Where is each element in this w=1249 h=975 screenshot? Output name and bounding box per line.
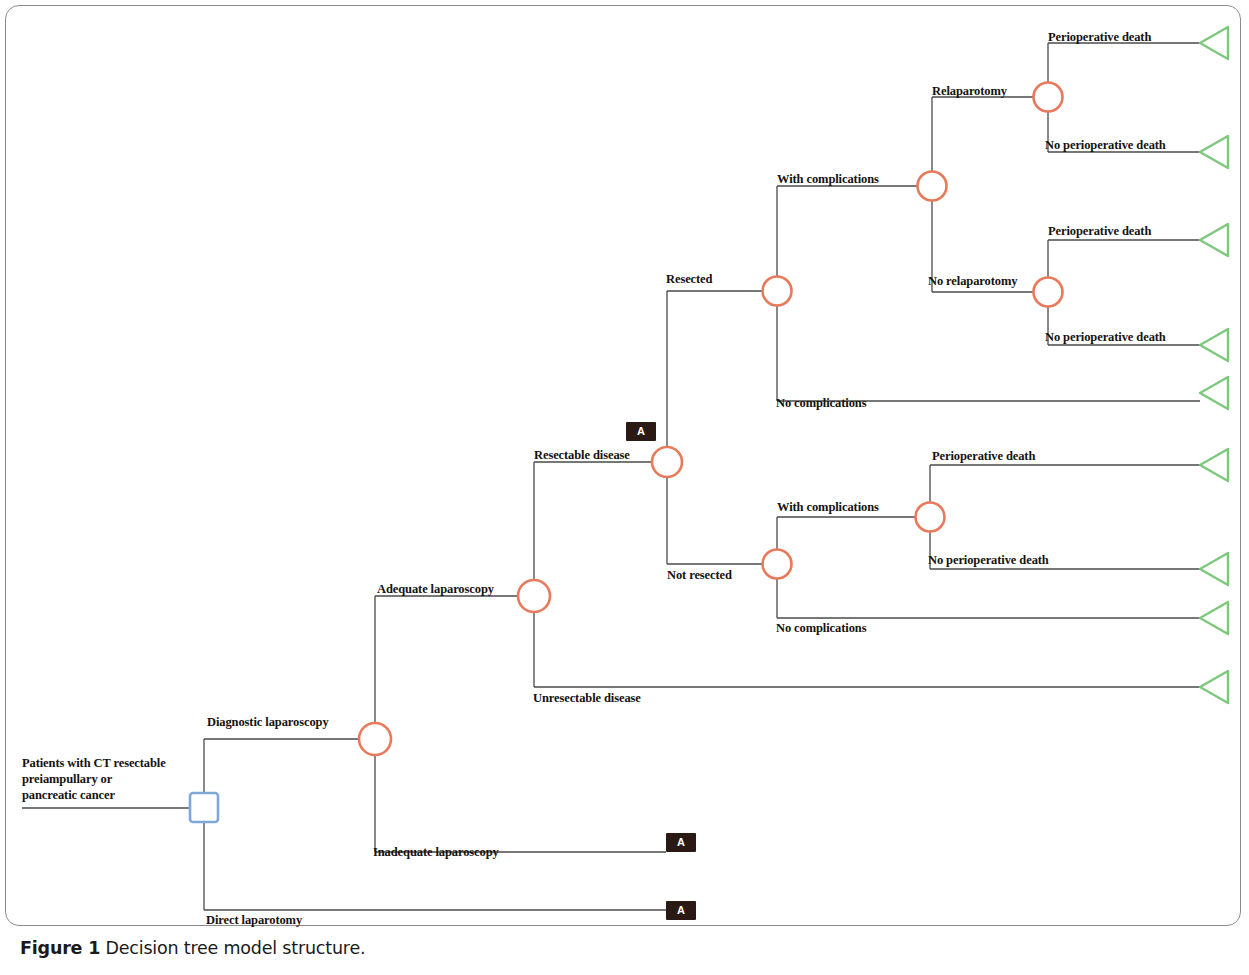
root-node-label: Patients with CT resectable preiampullar… bbox=[22, 755, 202, 803]
branch-label-with-complications-upper: With complications bbox=[777, 172, 879, 186]
chance-node-diagnostic-laparoscopy[interactable] bbox=[359, 723, 391, 755]
terminal-node-no-complications-upper[interactable] bbox=[1200, 377, 1228, 409]
terminal-node-perioperative-death-3[interactable] bbox=[1200, 449, 1228, 481]
root-label-line-1: Patients with CT resectable bbox=[22, 755, 202, 771]
branch-label-unresectable-disease: Unresectable disease bbox=[533, 691, 641, 705]
chance-node-with-complications-upper[interactable] bbox=[918, 172, 947, 201]
figure-caption: Figure 1 Decision tree model structure. bbox=[20, 938, 365, 958]
terminal-node-no-complications-lower[interactable] bbox=[1200, 602, 1228, 634]
figure-caption-text: Decision tree model structure. bbox=[105, 938, 365, 958]
tag-box-direct-laparotomy[interactable]: A bbox=[666, 901, 696, 920]
chance-node-resectable-disease[interactable] bbox=[652, 447, 682, 477]
figure-caption-prefix: Figure 1 bbox=[20, 938, 100, 958]
chance-node-not-resected[interactable] bbox=[763, 550, 792, 579]
branch-label-perioperative-death-1: Perioperative death bbox=[1048, 30, 1151, 44]
chance-node-with-complications-lower[interactable] bbox=[916, 503, 945, 532]
chance-node-resected[interactable] bbox=[763, 277, 792, 306]
branch-label-no-perioperative-death-2: No perioperative death bbox=[1045, 330, 1166, 344]
branch-label-no-complications-lower: No complications bbox=[776, 621, 866, 635]
root-label-line-3: pancreatic cancer bbox=[22, 787, 202, 803]
chance-node-no-relaparotomy[interactable] bbox=[1034, 278, 1063, 307]
terminal-node-no-perioperative-death-3[interactable] bbox=[1200, 553, 1228, 585]
terminal-node-perioperative-death-1[interactable] bbox=[1200, 27, 1228, 59]
terminal-node-no-perioperative-death-2[interactable] bbox=[1200, 329, 1228, 361]
chance-node-relaparotomy[interactable] bbox=[1034, 83, 1063, 112]
branch-label-perioperative-death-3: Perioperative death bbox=[932, 449, 1035, 463]
branch-label-no-perioperative-death-3: No perioperative death bbox=[928, 553, 1049, 567]
branch-label-with-complications-lower: With complications bbox=[777, 500, 879, 514]
root-label-line-2: preiampullary or bbox=[22, 771, 202, 787]
branch-label-adequate-laparoscopy: Adequate laparoscopy bbox=[377, 582, 494, 596]
chance-node-adequate-laparoscopy[interactable] bbox=[518, 580, 550, 612]
terminal-node-no-perioperative-death-1[interactable] bbox=[1200, 136, 1228, 168]
branch-label-relaparotomy: Relaparotomy bbox=[932, 84, 1007, 98]
branch-label-no-complications-upper: No complications bbox=[776, 396, 866, 410]
branch-label-perioperative-death-2: Perioperative death bbox=[1048, 224, 1151, 238]
branch-label-diagnostic-laparoscopy: Diagnostic laparoscopy bbox=[207, 715, 329, 729]
terminal-node-perioperative-death-2[interactable] bbox=[1200, 224, 1228, 256]
terminal-node-unresectable-disease[interactable] bbox=[1200, 671, 1228, 703]
branch-label-resected: Resected bbox=[666, 272, 712, 286]
branch-label-no-perioperative-death-1: No perioperative death bbox=[1045, 138, 1166, 152]
branch-label-inadequate-laparoscopy: Inadequate laparoscopy bbox=[373, 845, 499, 859]
branch-label-not-resected: Not resected bbox=[667, 568, 732, 582]
figure-page: Patients with CT resectable preiampullar… bbox=[0, 0, 1249, 975]
branch-label-direct-laparotomy: Direct laparotomy bbox=[206, 913, 302, 927]
tag-box-resectable-disease[interactable]: A bbox=[626, 422, 656, 441]
tag-box-inadequate-laparoscopy[interactable]: A bbox=[666, 833, 696, 852]
branch-label-no-relaparotomy: No relaparotomy bbox=[928, 274, 1017, 288]
branch-label-resectable-disease: Resectable disease bbox=[534, 448, 630, 462]
